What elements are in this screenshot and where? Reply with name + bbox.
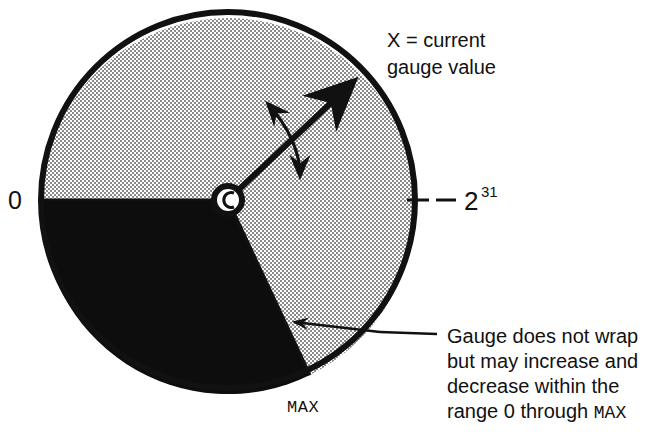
needle-pivot xyxy=(214,186,242,214)
gauge-diagram-svg: 0 MAX 2 31 X = current gauge value Gauge… xyxy=(0,0,655,442)
range-callout-line-2: but may increase and xyxy=(447,350,638,372)
range-callout-line-4: range 0 through MAX xyxy=(447,400,626,423)
max-label: MAX xyxy=(287,398,319,417)
needle-callout-line-2: gauge value xyxy=(387,56,496,78)
zero-label: 0 xyxy=(8,186,22,214)
range-callout-leader-horizontal xyxy=(380,332,437,334)
range-callout-line-1: Gauge does not wrap xyxy=(447,325,638,347)
range-callout-line-4-text: range 0 through xyxy=(447,400,594,422)
needle-callout: X = current gauge value xyxy=(387,29,496,78)
upper-limit-exponent: 31 xyxy=(481,183,498,200)
range-callout-line-3: decrease within the xyxy=(447,375,619,397)
range-callout-line-4-mono: MAX xyxy=(594,403,627,423)
needle-callout-line-1: X = current xyxy=(387,29,486,51)
diagram-canvas: 0 MAX 2 31 X = current gauge value Gauge… xyxy=(0,0,655,442)
upper-limit-base: 2 xyxy=(464,186,478,216)
upper-limit-callout: 2 31 xyxy=(407,183,498,216)
